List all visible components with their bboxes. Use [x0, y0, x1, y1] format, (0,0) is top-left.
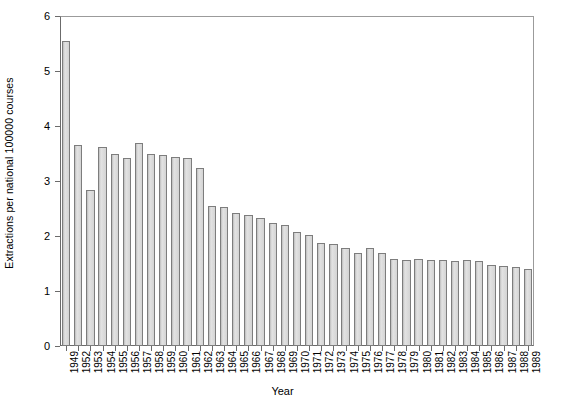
bar [305, 235, 313, 346]
bar [281, 225, 289, 346]
bar [256, 218, 264, 346]
bar [402, 260, 410, 346]
bar [171, 157, 179, 346]
bar [414, 259, 422, 346]
bar [183, 158, 191, 346]
bar [463, 260, 471, 346]
y-axis-tick-label: 5 [28, 66, 50, 77]
bar [196, 168, 204, 346]
bar [378, 253, 386, 347]
bar [366, 248, 374, 346]
bar [74, 145, 82, 346]
bar [354, 253, 362, 347]
y-axis-tick-label: 6 [28, 11, 50, 22]
bar [329, 244, 337, 346]
bar [439, 260, 447, 346]
bar [98, 147, 106, 346]
bar [111, 154, 119, 347]
y-axis-title: Extractions per national 100000 courses [0, 0, 18, 346]
bar [208, 206, 216, 346]
bar [390, 259, 398, 346]
y-axis-tick-label: 0 [28, 341, 50, 352]
x-axis-title: Year [0, 385, 565, 397]
bar [317, 243, 325, 346]
y-axis-title-text: Extractions per national 100000 courses [3, 77, 15, 268]
bar [293, 232, 301, 346]
y-axis-tick-label: 3 [28, 176, 50, 187]
y-axis-tick-label: 4 [28, 121, 50, 132]
bar [475, 261, 483, 346]
bar [123, 158, 131, 346]
bar [512, 267, 520, 346]
y-axis-tick-label: 1 [28, 286, 50, 297]
bar [220, 207, 228, 346]
bar [427, 260, 435, 346]
bar [147, 154, 155, 347]
bar [499, 266, 507, 346]
bar [86, 190, 94, 346]
bar [135, 143, 143, 347]
bars-container [60, 16, 534, 346]
bar [487, 265, 495, 346]
bar-chart-figure: Extractions per national 100000 courses … [0, 0, 565, 404]
bar [244, 215, 252, 346]
bar [62, 41, 70, 346]
bar [524, 269, 532, 346]
y-axis-tick-label: 2 [28, 231, 50, 242]
bar [232, 213, 240, 346]
bar [451, 261, 459, 346]
bar [159, 155, 167, 346]
bar [269, 223, 277, 346]
bar [341, 248, 349, 346]
y-axis-tick-labels: 0123456 [22, 0, 50, 404]
